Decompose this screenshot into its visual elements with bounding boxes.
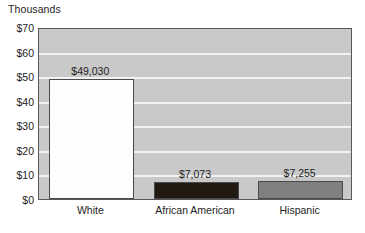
bar-value-label: $7,255 [284, 167, 316, 179]
bar-value-label: $49,030 [71, 65, 109, 77]
y-axis-tick-label: $0 [0, 194, 34, 206]
y-axis-tick-label-group: $0$10$20$30$40$50$60$70 [0, 28, 34, 200]
x-axis-tick-label: African American [155, 204, 234, 216]
y-axis-tick-label: $10 [0, 169, 34, 181]
y-axis-tick-label: $30 [0, 120, 34, 132]
y-axis-tick-label: $60 [0, 47, 34, 59]
bar [258, 181, 343, 199]
y-axis-tick-label: $40 [0, 96, 34, 108]
x-axis-tick-label: White [77, 204, 104, 216]
bar [49, 79, 134, 199]
y-axis-tick-label: $20 [0, 145, 34, 157]
bar-value-label: $7,073 [179, 168, 211, 180]
bar [154, 182, 239, 199]
gridline [39, 53, 351, 55]
x-axis-tick-label: Hispanic [280, 204, 320, 216]
y-axis-tick-label: $70 [0, 22, 34, 34]
bar-chart-figure: Thousands $0$10$20$30$40$50$60$70 $49,03… [0, 0, 365, 233]
y-axis-tick-label: $50 [0, 71, 34, 83]
y-axis-unit-label: Thousands [8, 3, 61, 15]
x-axis-tick-label-group: WhiteAfrican AmericanHispanic [38, 204, 352, 222]
